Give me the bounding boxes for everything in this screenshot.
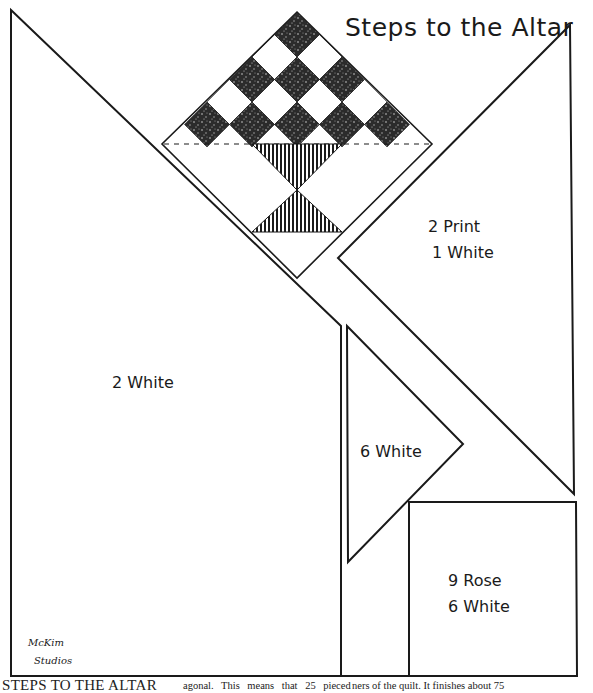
studio-line1: McKim bbox=[27, 637, 64, 648]
label-square-line2: 6 White bbox=[448, 597, 510, 616]
label-small-triangle: 6 White bbox=[360, 442, 422, 461]
caption-col1-line1: agonal. This means that 25 pieced bbox=[183, 680, 343, 692]
pattern-diagram: Steps to the Altar 2 White 2 Print 1 Whi… bbox=[0, 0, 593, 693]
label-right-triangle-line1: 2 Print bbox=[428, 217, 480, 236]
label-large-triangle: 2 White bbox=[112, 373, 174, 392]
quilt-pattern-page: Steps to the Altar 2 White 2 Print 1 Whi… bbox=[0, 0, 593, 693]
label-square-line1: 9 Rose bbox=[448, 571, 502, 590]
caption: STEPS TO THE ALTAR agonal. This means th… bbox=[0, 678, 593, 693]
studio-line2: Studios bbox=[34, 655, 72, 666]
caption-col2-line1: ners of the quilt. It finishes about 75 bbox=[352, 680, 592, 692]
label-right-triangle-line2: 1 White bbox=[432, 243, 494, 262]
pattern-title: Steps to the Altar bbox=[345, 13, 574, 42]
caption-heading: STEPS TO THE ALTAR bbox=[2, 678, 157, 693]
